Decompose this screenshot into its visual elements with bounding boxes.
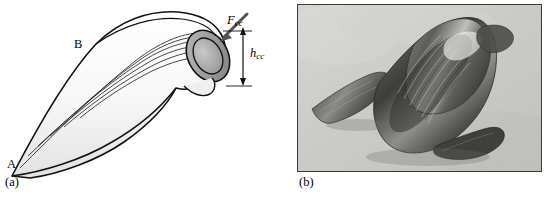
label-height-hcc: hcc — [250, 47, 264, 61]
panel-b-caption: (b) — [299, 176, 314, 189]
label-force-symbol: F — [227, 13, 235, 27]
label-point-a: A — [7, 158, 16, 171]
label-point-b: B — [74, 38, 82, 51]
photo-frame — [297, 4, 542, 172]
panel-a-line-drawing: B A Fcc hcc (a) — [0, 0, 290, 202]
figure-container: B A Fcc hcc (a) — [0, 0, 546, 202]
chip-curl-schematic — [0, 0, 290, 202]
chip-photograph — [298, 5, 541, 171]
label-height-subscript: cc — [256, 51, 264, 61]
panel-b-photograph: (b) — [297, 4, 542, 172]
panel-a-caption: (a) — [5, 176, 19, 189]
label-force-subscript: cc — [235, 18, 243, 28]
label-force-fcc: Fcc — [227, 14, 243, 28]
